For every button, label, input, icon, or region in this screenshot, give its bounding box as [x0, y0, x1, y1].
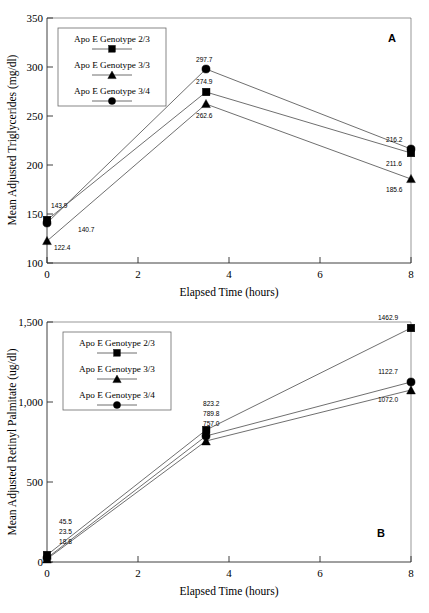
panel-a-label-t8-square: 211.6: [386, 160, 402, 167]
panel-b-xtick-0: 0: [44, 567, 50, 579]
panel-a-ytick-3: 250: [27, 110, 44, 122]
panel-a-label-t8-triangle: 185.6: [386, 186, 403, 193]
panel-b-ytick-3: 1,500: [18, 316, 43, 328]
panel-b-label-t0-triangle: 18.8: [59, 538, 72, 545]
panel-b-ytick-2: 1,000: [18, 396, 43, 408]
panel-a-series-triangle-line: [47, 104, 411, 241]
panel-b-xtick-4: 8: [408, 567, 414, 579]
panel-a-label-t35-triangle: 262.6: [196, 112, 213, 119]
panel-b-label-t0-circle: 23.5: [59, 528, 72, 535]
panel-b-y-ticks: [47, 322, 53, 562]
panel-a-xtick-4: 8: [408, 268, 414, 280]
panel-b: 0 500 1,000 1,500 0 2 4 6 8 Elapsed Time…: [0, 306, 429, 613]
panel-a-legend-label-2: Apo E Genotype 3/4: [74, 86, 150, 96]
panel-a-label-t0-square: 143.9: [51, 202, 68, 209]
panel-b-triangle-marker-t8: [407, 386, 416, 394]
panel-b-x-axis-title: Elapsed Time (hours): [179, 585, 278, 598]
panel-b-x-ticks: [47, 556, 411, 562]
panel-b-xtick-1: 2: [135, 567, 141, 579]
panel-a-label-t0-triangle: 122.4: [54, 244, 71, 251]
panel-a: 100 150 200 250 300 350 0 2 4 6 8 Elapse…: [0, 0, 429, 306]
panel-b-circle-marker-t8: [407, 378, 415, 386]
panel-b-label-t8-triangle: 1072.0: [378, 396, 399, 403]
panel-b-legend: Apo E Genotype 2/3 Apo E Genotype 3/3 Ap…: [63, 332, 171, 410]
panel-a-legend-square-icon: [109, 45, 116, 52]
panel-a-xtick-1: 2: [135, 268, 141, 280]
panel-b-xtick-2: 4: [226, 567, 232, 579]
panel-b-legend-label-2: Apo E Genotype 3/4: [79, 390, 155, 400]
panel-b-legend-circle-icon: [113, 401, 120, 408]
panel-a-circle-marker-t8: [407, 145, 415, 153]
panel-b-legend-label-1: Apo E Genotype 3/3: [79, 364, 155, 374]
panel-b-label-t8-circle: 1122.7: [378, 368, 398, 375]
panel-a-xtick-0: 0: [44, 268, 50, 280]
panel-a-ytick-1: 150: [27, 208, 44, 220]
panel-a-circle-marker-t0: [43, 219, 51, 227]
panel-a-y-axis-title: Mean Adjusted Triglycerides (mg/dl): [6, 54, 19, 225]
panel-b-letter: B: [377, 527, 385, 539]
panel-a-series-square-line: [47, 92, 411, 220]
panel-b-circle-marker-t0: [43, 554, 51, 562]
panel-a-letter: A: [388, 32, 396, 44]
panel-a-triangle-marker-t35: [202, 99, 211, 107]
panel-a-legend: Apo E Genotype 2/3 Apo E Genotype 3/3 Ap…: [58, 28, 166, 106]
panel-b-label-t35-triangle: 757.0: [203, 420, 220, 427]
panel-a-label-t35-circle: 297.7: [196, 56, 213, 63]
panel-a-label-t8-circle: 216.2: [386, 136, 403, 143]
panel-b-circle-marker-t35: [202, 432, 210, 440]
panel-a-x-axis-title: Elapsed Time (hours): [179, 286, 278, 299]
panel-b-label-t35-square: 823.2: [203, 400, 220, 407]
panel-b-square-marker-t8: [407, 324, 415, 332]
panel-a-legend-label-1: Apo E Genotype 3/3: [74, 60, 150, 70]
panel-a-label-t0-circle: 140.7: [78, 226, 95, 233]
panel-b-series-triangle-line: [47, 390, 411, 559]
panel-b-legend-square-icon: [114, 349, 121, 356]
panel-b-y-axis-title: Mean Adjusted Retinyl Palmitate (ug/dl): [6, 348, 19, 535]
panel-a-ytick-4: 300: [27, 61, 44, 73]
panel-b-label-t0-square: 45.5: [59, 518, 72, 525]
panel-a-label-t35-square: 274.9: [196, 78, 213, 85]
panel-a-ytick-5: 350: [27, 12, 44, 24]
panel-b-legend-label-0: Apo E Genotype 2/3: [79, 338, 155, 348]
panel-a-ytick-2: 200: [27, 159, 44, 171]
panel-a-square-marker-t35: [202, 88, 210, 96]
panel-a-legend-circle-icon: [108, 97, 115, 104]
panel-b-label-t8-square: 1462.9: [378, 314, 399, 321]
panel-a-legend-label-0: Apo E Genotype 2/3: [74, 34, 150, 44]
panel-a-circle-marker-t35: [202, 65, 210, 73]
panel-a-ytick-0: 100: [27, 257, 44, 269]
panel-b-ytick-1: 500: [27, 476, 44, 488]
figure-container: 100 150 200 250 300 350 0 2 4 6 8 Elapse…: [0, 0, 429, 613]
panel-b-label-t35-circle: 789.8: [203, 410, 220, 417]
panel-a-xtick-3: 6: [317, 268, 323, 280]
panel-a-triangle-marker-t0: [43, 236, 52, 244]
panel-a-xtick-2: 4: [226, 268, 232, 280]
panel-a-plot: 100 150 200 250 300 350 0 2 4 6 8 Elapse…: [0, 0, 429, 306]
panel-a-x-ticks: [47, 257, 411, 263]
panel-a-triangle-marker-t8: [407, 174, 416, 182]
panel-b-xtick-3: 6: [317, 567, 323, 579]
panel-b-plot: 0 500 1,000 1,500 0 2 4 6 8 Elapsed Time…: [0, 306, 429, 613]
panel-b-ytick-0: 0: [38, 556, 44, 568]
